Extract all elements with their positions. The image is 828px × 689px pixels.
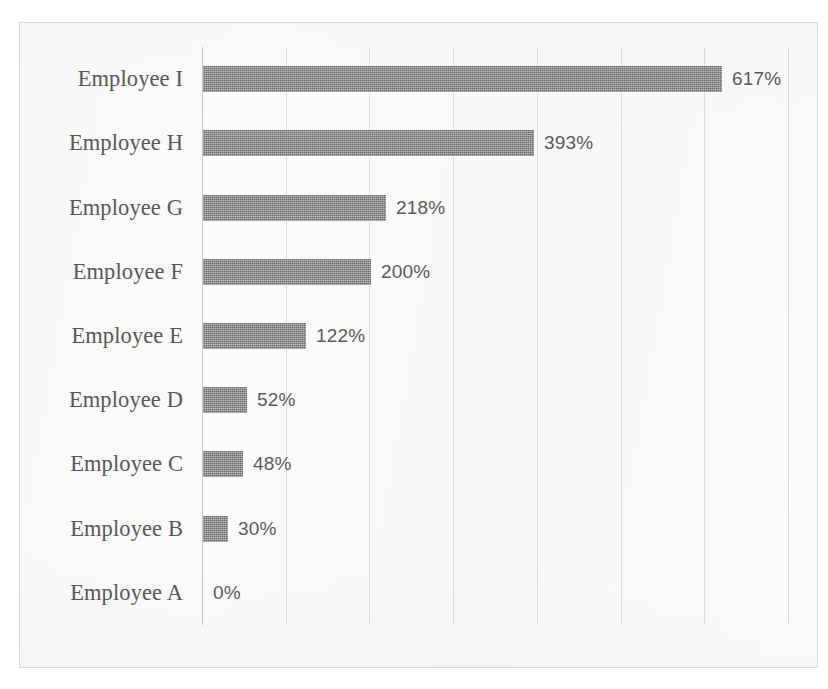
- category-label: Employee C: [19, 451, 183, 477]
- value-label: 52%: [257, 389, 296, 411]
- category-label: Employee B: [19, 516, 183, 542]
- bar-row: Employee I617%: [202, 47, 788, 111]
- bar-row: Employee C48%: [202, 432, 788, 496]
- category-label: Employee E: [19, 323, 183, 349]
- bar-row: Employee E122%: [202, 304, 788, 368]
- bar-row: Employee A0%: [202, 561, 788, 625]
- category-label: Employee H: [19, 130, 183, 156]
- value-label: 200%: [381, 261, 430, 283]
- value-label: 218%: [396, 197, 445, 219]
- category-label: Employee A: [19, 580, 183, 606]
- value-label: 617%: [732, 68, 781, 90]
- value-label: 0%: [213, 582, 241, 604]
- category-label: Employee D: [19, 387, 183, 413]
- bar: [203, 323, 306, 349]
- bar: [203, 516, 228, 542]
- bar-chart-figure: Employee I617%Employee H393%Employee G21…: [0, 0, 828, 689]
- value-label: 122%: [316, 325, 365, 347]
- category-label: Employee G: [19, 195, 183, 221]
- bar-row: Employee D52%: [202, 368, 788, 432]
- value-label: 48%: [253, 453, 292, 475]
- plot-area: Employee I617%Employee H393%Employee G21…: [202, 47, 788, 625]
- bar: [203, 259, 371, 285]
- category-label: Employee F: [19, 259, 183, 285]
- bar: [203, 195, 386, 221]
- chart-frame: Employee I617%Employee H393%Employee G21…: [19, 22, 818, 668]
- value-label: 30%: [238, 518, 277, 540]
- bar: [203, 387, 247, 413]
- bar-row: Employee G218%: [202, 175, 788, 239]
- bar-row: Employee H393%: [202, 111, 788, 175]
- bar: [203, 130, 534, 156]
- bar: [203, 66, 722, 92]
- gridline: [788, 47, 789, 625]
- bar-row: Employee B30%: [202, 497, 788, 561]
- category-label: Employee I: [19, 66, 183, 92]
- value-label: 393%: [544, 132, 593, 154]
- bar: [203, 451, 243, 477]
- bar-row: Employee F200%: [202, 240, 788, 304]
